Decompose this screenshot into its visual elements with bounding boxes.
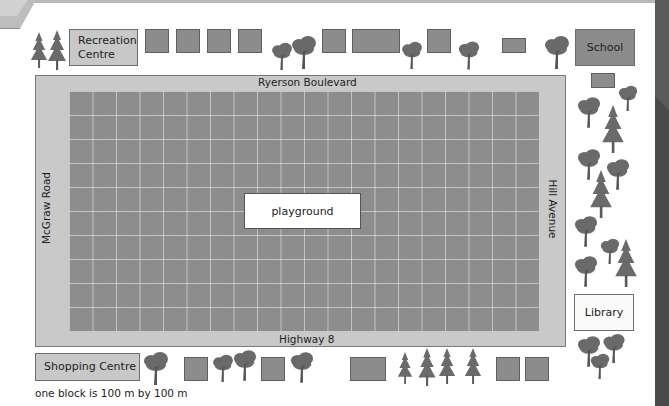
deciduous-tree-icon — [590, 352, 610, 380]
deciduous-tree-icon — [233, 349, 257, 381]
deciduous-tree-icon — [544, 35, 570, 69]
city-block — [145, 29, 169, 53]
school-building: School — [575, 29, 635, 66]
pine-tree-icon — [437, 348, 457, 384]
city-block — [350, 357, 386, 381]
deciduous-tree-icon — [271, 42, 293, 70]
city-block — [238, 29, 262, 53]
city-block — [525, 357, 549, 381]
road-label-north: Ryerson Boulevard — [258, 76, 357, 88]
road-label-east: Hill Avenue — [547, 174, 559, 244]
city-block — [322, 29, 346, 53]
city-block — [496, 357, 520, 381]
school-label: School — [587, 41, 624, 55]
library-label: Library — [585, 306, 623, 320]
deciduous-tree-icon — [574, 255, 598, 287]
city-block — [591, 73, 615, 88]
deciduous-tree-icon — [291, 35, 317, 69]
city-block — [184, 357, 208, 381]
deciduous-tree-icon — [143, 351, 169, 385]
deciduous-tree-icon — [574, 215, 598, 247]
city-block — [427, 29, 451, 53]
pine-tree-icon — [601, 103, 625, 155]
shopping-centre-label: Shopping Centre — [44, 360, 136, 374]
city-block — [207, 29, 231, 53]
page-top-border — [0, 0, 669, 3]
city-block — [352, 29, 400, 53]
deciduous-tree-icon — [458, 40, 480, 70]
city-block — [502, 38, 526, 53]
deciduous-tree-icon — [401, 41, 423, 69]
deciduous-tree-icon — [212, 354, 234, 382]
recreation-centre-building: Recreation Centre — [69, 29, 138, 66]
pine-tree-icon — [396, 352, 414, 384]
playground-area: playground — [244, 193, 361, 229]
recreation-centre-label: Recreation Centre — [78, 34, 137, 62]
shopping-centre-building: Shopping Centre — [35, 353, 140, 381]
pine-tree-icon — [463, 348, 483, 384]
scale-note: one block is 100 m by 100 m — [35, 387, 188, 399]
deciduous-tree-icon — [577, 96, 601, 128]
city-block — [176, 29, 200, 53]
library-building: Library — [574, 294, 634, 331]
road-label-south: Highway 8 — [279, 333, 334, 345]
road-label-west: McGraw Road — [40, 174, 52, 244]
pine-tree-icon — [614, 237, 638, 289]
deciduous-tree-icon — [290, 351, 314, 383]
playground-label: playground — [271, 205, 333, 218]
page-side-tab-tip — [655, 0, 669, 110]
pine-tree-icon — [417, 348, 437, 386]
pine-tree-icon — [47, 30, 67, 70]
city-block — [261, 357, 285, 381]
pine-tree-icon — [30, 31, 48, 69]
pine-tree-icon — [589, 168, 613, 220]
